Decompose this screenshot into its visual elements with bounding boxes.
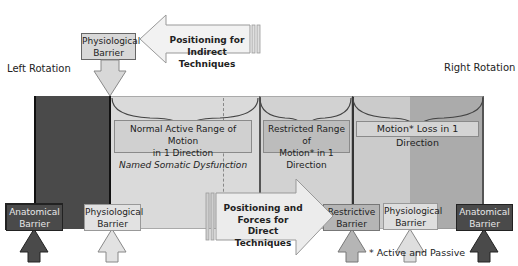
footnote: * Active and Passive xyxy=(369,247,465,258)
down-arrow-icon xyxy=(90,58,130,98)
restricted-range-box: Restricted Range of Motion* in 1 Directi… xyxy=(263,120,350,153)
indirect-line-2: Indirect Techniques xyxy=(162,46,252,70)
restricted-line-3: Direction xyxy=(264,159,349,171)
anatomical-left-line-1: Anatomical xyxy=(7,206,62,218)
direct-line-2: Forces for xyxy=(220,215,306,227)
anatomical-barrier-left: Anatomical Barrier xyxy=(6,204,63,231)
normal-line-1: Normal Active Range of Motion xyxy=(115,123,251,147)
anatomical-right-line-2: Barrier xyxy=(457,218,512,230)
indirect-techniques-label: Positioning for Indirect Techniques xyxy=(162,34,252,70)
restricted-line-1: Restricted Range of xyxy=(264,123,349,147)
physiological-right-line-2: Barrier xyxy=(384,217,437,229)
physiological-left-line-2: Barrier xyxy=(85,218,140,230)
physiological-right-line-1: Physiological xyxy=(384,205,437,217)
anatomical-right-line-1: Anatomical xyxy=(457,206,512,218)
direct-line-3: Direct Techniques xyxy=(220,226,306,249)
anatomical-right-arrow-icon xyxy=(469,228,499,263)
normal-line-2: in 1 Direction xyxy=(115,147,251,159)
physiological-barrier-right: Physiological Barrier xyxy=(383,203,438,230)
motion-loss-label: Motion* Loss in 1 Direction xyxy=(357,122,478,150)
right-rotation-label: Right Rotation xyxy=(444,62,515,73)
direct-line-1: Positioning and xyxy=(220,203,306,215)
physiological-left-arrow-icon xyxy=(97,228,127,263)
left-rotation-label: Left Rotation xyxy=(7,63,71,74)
physiological-barrier-left: Physiological Barrier xyxy=(84,204,141,231)
direct-techniques-label: Positioning and Forces for Direct Techni… xyxy=(220,203,306,249)
anatomical-left-line-2: Barrier xyxy=(7,218,62,230)
indirect-line-1: Positioning for xyxy=(162,34,252,46)
top-physiological-barrier-box: Physiological Barrier xyxy=(81,33,136,60)
physiological-left-line-1: Physiological xyxy=(85,206,140,218)
top-physiological-barrier-label: Physiological Barrier xyxy=(82,35,135,59)
restricted-line-2: Motion* in 1 xyxy=(264,147,349,159)
normal-line-3: Named Somatic Dysfunction xyxy=(115,159,251,171)
normal-range-box: Normal Active Range of Motion in 1 Direc… xyxy=(114,120,252,153)
restrictive-arrow-icon xyxy=(337,228,367,263)
motion-loss-box: Motion* Loss in 1 Direction xyxy=(356,121,479,137)
anatomical-left-arrow-icon xyxy=(19,228,49,263)
anatomical-barrier-right: Anatomical Barrier xyxy=(456,204,513,231)
